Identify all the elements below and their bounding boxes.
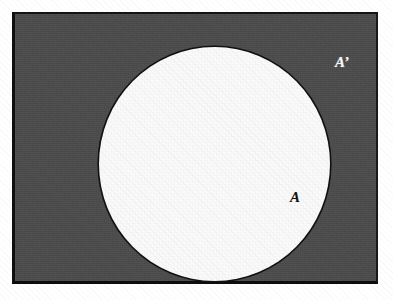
set-a-label: A [290,190,300,205]
venn-diagram-figure: A’ A [0,0,393,300]
universal-set-rectangle: A’ A [12,12,378,284]
set-a-complement-label: A’ [335,55,349,70]
circle-paper-texture [99,47,330,281]
set-a-circle: A [99,47,330,281]
